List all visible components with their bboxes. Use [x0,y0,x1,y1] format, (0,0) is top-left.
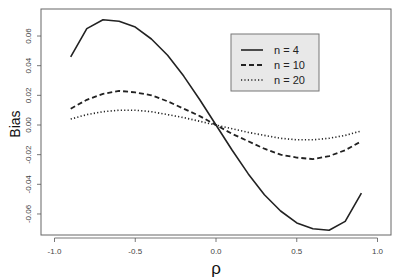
y-tick-label: 0.02 [24,87,33,103]
y-axis: -0.06-0.04-0.020.000.020.040.06 [24,28,41,223]
legend: n = 4n = 10n = 20 [231,34,319,91]
plot-frame [41,9,391,235]
legend-label: n = 20 [274,74,305,86]
x-axis: -1.0-0.50.00.51.0 [48,238,384,256]
y-axis-title: Bias [7,110,23,137]
y-tick-label: 0.00 [24,117,33,133]
x-axis-title: ρ [211,259,221,278]
x-tick-label: 0.5 [291,247,303,256]
legend-label: n = 4 [274,44,299,56]
y-tick-label: 0.06 [24,28,33,44]
y-tick-label: -0.02 [24,145,33,164]
series-line-n10 [71,91,362,159]
x-tick-label: -1.0 [48,247,62,256]
x-tick-label: 1.0 [372,247,384,256]
y-tick-label: 0.04 [24,57,33,73]
y-tick-label: -0.04 [24,175,33,194]
x-tick-label: 0.0 [210,247,222,256]
y-tick-label: -0.06 [24,204,33,223]
x-tick-label: -0.5 [128,247,142,256]
legend-label: n = 10 [274,59,305,71]
bias-chart: -1.0-0.50.00.51.0 -0.06-0.04-0.020.000.0… [0,0,402,280]
